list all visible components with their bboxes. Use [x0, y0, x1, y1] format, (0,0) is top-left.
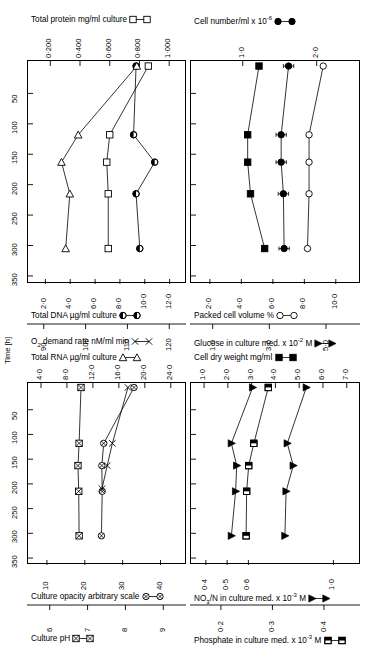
x-tick-label-bottom: 2·0 [205, 285, 213, 309]
secondary-axis-top-left [27, 323, 186, 333]
x-tick-label-top: 1·0 [238, 30, 246, 58]
x-tick-label-top: 0·400 [75, 30, 83, 58]
axis-title-top-right-bottom2: Cell dry weight mg/ml [194, 353, 297, 362]
x-tick-label-bottom: 40 [156, 566, 164, 590]
time-tick-label: 350 [11, 546, 19, 568]
axis-title-bottom-right-bottom2: Phosphate in culture med. x 10-3 M [194, 634, 346, 645]
x-tick-label-top: 1·0 [199, 352, 207, 380]
axis-title-top-left-bottom2: Total RNA µg/ml culture [31, 353, 141, 362]
axis-title-text: Culture opacity arbitrary scale [31, 592, 142, 601]
series-2 [99, 384, 131, 492]
time-tick-label: 350 [11, 264, 19, 286]
axis-title-text: Packed cell volume % [194, 311, 276, 320]
x-tick-label-top: 0·200 [45, 30, 53, 58]
time-tick-label: 300 [11, 521, 19, 543]
time-tick-label: 200 [11, 472, 19, 494]
time-tick-label: 300 [11, 234, 19, 256]
plot-canvas-bottom-right [191, 383, 361, 565]
time-axis-title: Time [h] [4, 318, 12, 364]
x-tick-label-top: 6·0 [318, 352, 326, 380]
x-tick-label-bottom2: 6 [46, 610, 54, 632]
axis-title-bottom-right-top: Glucose in culture med. x 10-2 M [194, 337, 336, 348]
x-tick-label-bottom: 6·0 [90, 285, 98, 309]
series-2 [58, 62, 141, 251]
series-1 [243, 384, 272, 539]
x-tick-label-top: 7·0 [342, 352, 350, 380]
series-0 [244, 63, 267, 252]
axis-title-bottom-left-bottom2: Culture pH [31, 634, 94, 643]
x-tick-label-bottom: 0·4 [201, 566, 209, 590]
time-tick-label: 250 [11, 497, 19, 519]
axis-title-text: Total DNA µg/ml culture [31, 311, 119, 320]
axis-title-top-left-top: Total protein mg/ml culture [31, 15, 151, 24]
x-tick-label-bottom: 10·0 [140, 285, 148, 309]
plot-canvas-top-right [191, 61, 361, 284]
x-tick-label-bottom2: 0·3 [268, 610, 276, 632]
plot-canvas-top-left [28, 61, 187, 284]
x-tick-label-top: 0·600 [105, 30, 113, 58]
time-tick-label: 200 [11, 173, 19, 195]
panel-bottom-left [27, 382, 186, 564]
axis-title-text: Culture pH [31, 634, 72, 643]
axis-title-top-right-top: Cell number/ml x 10-6 [194, 15, 296, 26]
series-1 [276, 63, 294, 252]
x-tick-label-top: 2·0 [312, 30, 320, 58]
axis-title-top-right-bottom: Packed cell volume % [194, 311, 298, 320]
time-tick-label: 150 [11, 447, 19, 469]
x-tick-label-bottom: 6·0 [268, 285, 276, 309]
axis-title-bottom-left-top: O2 demand rate nM/ml min [31, 337, 153, 348]
x-tick-label-bottom: 8·0 [299, 285, 307, 309]
x-tick-label-bottom: 4·0 [236, 285, 244, 309]
axis-title-text: O2 demand rate nM/ml min [31, 337, 131, 346]
axis-title-text: Total RNA µg/ml culture [31, 353, 119, 362]
axis-title-text: Glucose in culture med. x 10-2 M [194, 339, 314, 348]
x-tick-label-top: 1·000 [164, 30, 172, 58]
axis-title-bottom-left-bottom: Culture opacity arbitrary scale [31, 592, 164, 601]
time-tick-label: 250 [11, 203, 19, 225]
x-tick-label-top: 3·0 [247, 352, 255, 380]
x-tick-label-bottom: 12·0 [165, 285, 173, 309]
x-tick-label-bottom: 4·0 [65, 285, 73, 309]
series-0 [75, 384, 84, 539]
axis-title-text: Phosphate in culture med. x 10-3 M [194, 636, 324, 645]
x-tick-label-bottom: 10 [42, 566, 50, 590]
time-tick-label: 100 [11, 112, 19, 134]
x-tick-label-top: 16·0 [114, 352, 122, 380]
x-tick-label-bottom2: 8 [121, 610, 129, 632]
series-0 [228, 384, 256, 540]
x-tick-label-bottom2: 0·2 [217, 610, 225, 632]
axis-title-text: Total protein mg/ml culture [31, 15, 129, 24]
x-tick-label-bottom: 20 [80, 566, 88, 590]
x-tick-label-bottom: 10·0 [331, 285, 339, 309]
x-tick-label-bottom: 2·0 [40, 285, 48, 309]
x-tick-label-bottom: 0·6 [243, 566, 251, 590]
series-0 [104, 63, 152, 252]
time-tick-label: 50 [11, 398, 19, 420]
x-tick-label-top: 12·0 [88, 352, 96, 380]
x-tick-label-top: 4·0 [36, 352, 44, 380]
plot-canvas-bottom-left [28, 383, 187, 565]
axis-title-text: NO3/N in culture med. x 10-3 M [194, 594, 308, 603]
time-tick-label: 100 [11, 422, 19, 444]
panel-bottom-right [190, 382, 360, 564]
panel-top-left [27, 60, 186, 283]
time-tick-label: 50 [11, 81, 19, 103]
x-tick-label-top: 2·0 [223, 352, 231, 380]
panel-top-right [190, 60, 360, 283]
x-tick-label-bottom: 8·0 [115, 285, 123, 309]
series-1 [98, 384, 137, 539]
x-tick-label-bottom: 30 [118, 566, 126, 590]
x-tick-label-top: 24·0 [166, 352, 174, 380]
x-tick-label-top: 0·800 [134, 30, 142, 58]
x-tick-label-top: 8·0 [62, 352, 70, 380]
x-tick-label-bottom: 1·0 [328, 566, 336, 590]
series-2 [304, 63, 326, 252]
x-tick-label-top: 5·0 [294, 352, 302, 380]
time-tick-label: 150 [11, 142, 19, 164]
x-tick-label-bottom2: 9 [159, 610, 167, 632]
x-tick-label-bottom2: 7 [84, 610, 92, 632]
series-2 [282, 384, 311, 540]
axis-title-text: Cell number/ml x 10-6 [194, 17, 274, 26]
x-tick-label-top: 20·0 [140, 352, 148, 380]
